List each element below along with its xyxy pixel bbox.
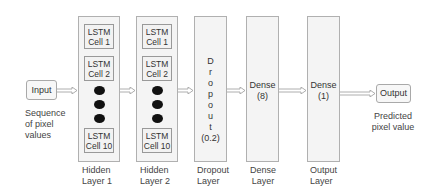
lstm-cell-1: LSTM Cell 1 <box>142 24 172 49</box>
input-caption-line-3: values <box>25 130 66 141</box>
arrow-right-icon <box>340 90 376 97</box>
dropout-rate: (0.2) <box>195 133 226 144</box>
arrow-right-icon <box>279 87 307 94</box>
lstm-cell-2: LSTM Cell 2 <box>142 56 172 81</box>
arrow-right-icon <box>178 87 194 94</box>
caption-line-2: Layer <box>197 176 229 187</box>
arrow-output-layer-to-output <box>340 90 376 97</box>
dropout-letter: r <box>195 67 226 78</box>
input-caption-line-2: of pixel <box>25 119 66 130</box>
output-label: Output <box>377 88 410 99</box>
ellipsis-dot <box>152 114 163 123</box>
dense-layer: Dense (8) <box>246 16 279 162</box>
dropout-letter: D <box>195 56 226 67</box>
lstm-cell-2: LSTM Cell 2 <box>84 56 114 81</box>
dropout-layer-caption: Dropout Layer <box>197 165 229 187</box>
dropout-letter: p <box>195 89 226 100</box>
cell-title: LSTM <box>85 131 113 141</box>
hidden-layer-1: LSTM Cell 1 LSTM Cell 2 LSTM Cell 10 <box>78 16 120 162</box>
caption-line-2: Layer <box>250 176 276 187</box>
lstm-cell-10: LSTM Cell 10 <box>84 128 114 153</box>
cell-title: LSTM <box>143 131 171 141</box>
caption-line-2: Layer <box>310 176 337 187</box>
input-caption-line-1: Sequence <box>25 108 66 119</box>
cell-number: Cell 1 <box>143 37 171 47</box>
dropout-letter: o <box>195 78 226 89</box>
input-caption: Sequence of pixel values <box>25 108 66 141</box>
arrow-right-icon <box>120 87 136 94</box>
caption-line-1: Hidden <box>82 165 112 176</box>
caption-line-2: pixel value <box>368 122 418 133</box>
hidden-layer-2: LSTM Cell 1 LSTM Cell 2 LSTM Cell 10 <box>136 16 178 162</box>
dropout-letter: o <box>195 100 226 111</box>
caption-line-1: Predicted <box>368 111 418 122</box>
cell-number: Cell 10 <box>143 141 171 151</box>
arrow-hidden1-to-hidden2 <box>120 87 136 94</box>
hidden-layer-1-caption: Hidden Layer 1 <box>82 165 112 187</box>
ellipsis-dot <box>94 86 105 95</box>
ellipsis-dot <box>94 100 105 109</box>
cell-number: Cell 10 <box>85 141 113 151</box>
caption-line-2: Layer 1 <box>82 176 112 187</box>
caption-line-1: Dense <box>250 165 276 176</box>
cell-title: LSTM <box>143 59 171 69</box>
lstm-cell-1: LSTM Cell 1 <box>84 24 114 49</box>
cell-title: LSTM <box>85 59 113 69</box>
dropout-layer: D r o p o u t (0.2) <box>194 16 227 162</box>
output-layer-name: Dense <box>308 80 339 91</box>
output-caption: Predicted pixel value <box>368 111 418 133</box>
cell-number: Cell 2 <box>143 69 171 79</box>
cell-number: Cell 1 <box>85 37 113 47</box>
hidden-layer-2-caption: Hidden Layer 2 <box>140 165 170 187</box>
caption-line-1: Hidden <box>140 165 170 176</box>
ellipsis-dot <box>152 86 163 95</box>
arrow-dropout-to-dense <box>227 87 246 94</box>
caption-line-1: Dropout <box>197 165 229 176</box>
input-label: Input <box>27 85 56 96</box>
output-layer-caption: Output Layer <box>310 165 337 187</box>
caption-line-1: Output <box>310 165 337 176</box>
dense-layer-units: (8) <box>247 91 278 102</box>
output-node: Output <box>376 84 411 103</box>
output-layer: Dense (1) <box>307 16 340 162</box>
dropout-letter: u <box>195 111 226 122</box>
caption-line-2: Layer 2 <box>140 176 170 187</box>
output-layer-units: (1) <box>308 91 339 102</box>
ellipsis-dot <box>94 114 105 123</box>
cell-title: LSTM <box>85 27 113 37</box>
dropout-letter: t <box>195 122 226 133</box>
lstm-cell-10: LSTM Cell 10 <box>142 128 172 153</box>
arrow-input-to-hidden1 <box>57 87 78 94</box>
arrow-hidden2-to-dropout <box>178 87 194 94</box>
dense-layer-name: Dense <box>247 80 278 91</box>
ellipsis-dot <box>152 100 163 109</box>
dense-layer-caption: Dense Layer <box>250 165 276 187</box>
input-node: Input <box>26 80 57 100</box>
cell-number: Cell 2 <box>85 69 113 79</box>
arrow-right-icon <box>227 87 246 94</box>
cell-title: LSTM <box>143 27 171 37</box>
arrow-dense-to-output-layer <box>279 87 307 94</box>
arrow-right-icon <box>57 87 78 94</box>
